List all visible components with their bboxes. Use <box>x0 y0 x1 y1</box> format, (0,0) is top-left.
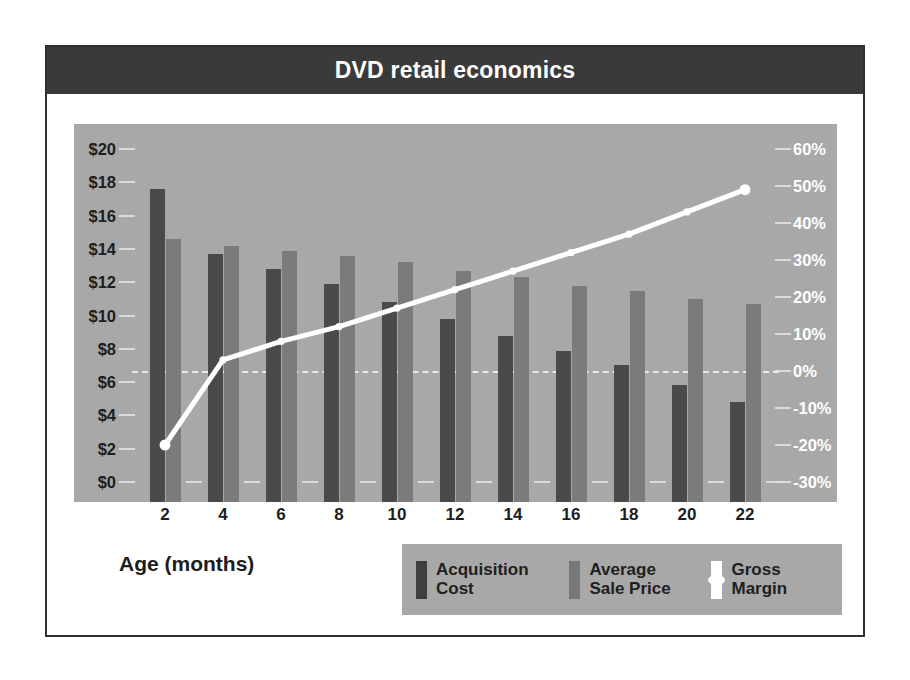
x-axis-label: 20 <box>678 505 697 525</box>
legend-line-marker-icon <box>711 561 722 599</box>
left-axis-tick <box>119 414 135 416</box>
left-axis-label: $4 <box>74 407 116 424</box>
x-axis-tick <box>476 481 492 483</box>
left-axis-tick <box>119 481 135 483</box>
gross-margin-marker <box>683 208 690 215</box>
gross-margin-marker <box>625 231 632 238</box>
gross-margin-marker <box>567 249 574 256</box>
right-axis-tick <box>775 259 791 261</box>
left-axis-label: $2 <box>74 441 116 458</box>
left-axis-tick <box>119 281 135 283</box>
right-axis-tick <box>775 222 791 224</box>
left-axis-tick <box>119 215 135 217</box>
left-axis-tick <box>119 348 135 350</box>
right-axis-label: 10% <box>793 326 837 343</box>
right-axis-label: 50% <box>793 178 837 195</box>
gross-margin-line-layer <box>136 124 774 502</box>
legend-item[interactable]: Average Sale Price <box>569 561 711 599</box>
x-axis-labels: 246810121416182022 <box>74 505 837 535</box>
plot-area: $20$18$16$14$12$10$8$6$4$2$0 60%50%40%30… <box>74 124 837 502</box>
right-axis-tick <box>775 296 791 298</box>
gross-margin-marker <box>393 305 400 312</box>
right-axis-label: -10% <box>793 400 837 417</box>
legend-item[interactable]: Gross Margin <box>711 561 828 599</box>
page-title: DVD retail economics <box>335 57 575 84</box>
x-axis-tick <box>244 481 260 483</box>
chart-title-bar: DVD retail economics <box>47 47 863 94</box>
gross-margin-marker <box>219 356 226 363</box>
legend-swatch-icon <box>569 561 580 599</box>
left-axis-label: $8 <box>74 341 116 358</box>
left-axis-label: $6 <box>74 374 116 391</box>
right-axis-tick <box>775 333 791 335</box>
x-axis-label: 4 <box>218 505 227 525</box>
right-axis-label: 40% <box>793 215 837 232</box>
legend-swatch-icon <box>416 561 427 599</box>
x-axis-label: 22 <box>736 505 755 525</box>
right-axis-label: -30% <box>793 474 837 491</box>
left-axis-label: $20 <box>74 141 116 158</box>
right-axis-tick <box>775 148 791 150</box>
x-axis-label: 2 <box>160 505 169 525</box>
legend-item[interactable]: Acquisition Cost <box>416 561 569 599</box>
chart-card: DVD retail economics $20$18$16$14$12$10$… <box>45 45 865 637</box>
gross-margin-marker <box>277 338 284 345</box>
x-axis-tick <box>360 481 376 483</box>
right-axis-label: 0% <box>793 363 837 380</box>
x-axis-tick <box>534 481 550 483</box>
x-axis-tick <box>302 481 318 483</box>
x-axis-tick <box>592 481 608 483</box>
left-axis-label: $14 <box>74 241 116 258</box>
left-axis-tick <box>119 148 135 150</box>
x-axis-tick <box>650 481 666 483</box>
left-axis-tick <box>119 381 135 383</box>
left-axis-label: $12 <box>74 274 116 291</box>
gross-margin-marker <box>160 440 171 451</box>
right-axis-label: 20% <box>793 289 837 306</box>
x-axis-label: 12 <box>446 505 465 525</box>
right-axis-label: 60% <box>793 141 837 158</box>
left-axis-label: $10 <box>74 308 116 325</box>
gross-margin-line <box>165 190 745 445</box>
chart-legend: Acquisition CostAverage Sale PriceGross … <box>402 544 842 615</box>
x-axis-tick <box>186 481 202 483</box>
legend-label: Acquisition Cost <box>436 561 529 598</box>
x-axis-label: 10 <box>388 505 407 525</box>
left-axis-tick <box>119 315 135 317</box>
gross-margin-marker <box>451 286 458 293</box>
legend-label: Gross Margin <box>731 561 787 598</box>
right-axis-tick <box>775 185 791 187</box>
gross-margin-marker <box>335 323 342 330</box>
gross-margin-marker <box>740 184 751 195</box>
left-axis-label: $0 <box>74 474 116 491</box>
right-axis-tick <box>775 407 791 409</box>
x-axis-tick <box>766 481 782 483</box>
gross-margin-marker <box>509 268 516 275</box>
x-axis-tick <box>708 481 724 483</box>
x-axis-label: 6 <box>276 505 285 525</box>
right-axis-tick <box>775 444 791 446</box>
x-axis-label: 16 <box>562 505 581 525</box>
x-axis-title: Age (months) <box>119 552 254 576</box>
right-axis-label: 30% <box>793 252 837 269</box>
x-axis-label: 14 <box>504 505 523 525</box>
x-axis-label: 8 <box>334 505 343 525</box>
right-axis-label: -20% <box>793 437 837 454</box>
left-axis-tick <box>119 181 135 183</box>
left-axis-tick <box>119 248 135 250</box>
x-axis-tick <box>418 481 434 483</box>
left-axis-label: $16 <box>74 208 116 225</box>
x-axis-label: 18 <box>620 505 639 525</box>
left-axis-label: $18 <box>74 174 116 191</box>
left-axis-tick <box>119 448 135 450</box>
legend-label: Average Sale Price <box>589 561 670 598</box>
